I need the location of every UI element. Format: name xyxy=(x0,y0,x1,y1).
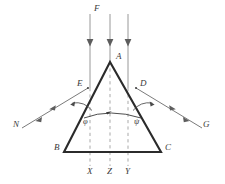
point-d-marker xyxy=(135,87,137,89)
refracted-ray-left xyxy=(22,88,88,128)
label-axis-X: X xyxy=(87,167,93,176)
incident-ray-center xyxy=(107,14,114,62)
arrowhead-right-icon xyxy=(169,105,176,110)
label-base-right-C: C xyxy=(165,143,171,152)
prism-ray-diagram xyxy=(0,0,225,184)
arrowhead-down-icon xyxy=(125,39,132,47)
label-angle-phi: φ xyxy=(83,117,88,126)
arrowhead-phi-icon xyxy=(70,102,75,107)
prism-triangle xyxy=(64,62,161,152)
label-exit-right-G: G xyxy=(203,120,210,129)
label-incident-beam-F: F xyxy=(94,4,100,13)
arrowhead-down-icon xyxy=(87,39,94,47)
label-point-D: D xyxy=(140,79,147,88)
label-point-E: E xyxy=(77,79,83,88)
wavefront-arc xyxy=(84,111,141,118)
arrowhead-down-icon xyxy=(107,39,114,47)
label-angle-psi: ψ xyxy=(134,117,139,126)
face-points xyxy=(87,87,137,89)
label-apex-A: A xyxy=(116,52,122,61)
label-base-left-B: B xyxy=(54,143,60,152)
point-e-marker xyxy=(87,87,89,89)
label-axis-Z: Z xyxy=(107,167,112,176)
arrowhead-psi-icon xyxy=(150,102,155,107)
refracted-ray-right xyxy=(136,88,202,128)
arrowhead-left-icon xyxy=(49,105,56,110)
incident-ray-right xyxy=(125,14,132,88)
label-axis-Y: Y xyxy=(125,167,130,176)
label-exit-left-N: N xyxy=(13,120,19,129)
incident-ray-left xyxy=(87,14,94,88)
